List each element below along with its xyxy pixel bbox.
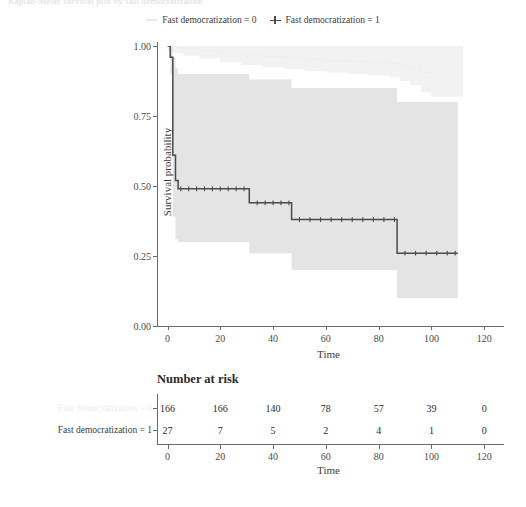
risk-x-tick-label: 80 — [374, 451, 384, 462]
risk-cell: 27 — [163, 425, 173, 436]
risk-cell: 7 — [218, 425, 223, 436]
risk-row-label-0: Fast democratization = 0 — [58, 403, 152, 413]
x-tick-label: 80 — [374, 333, 384, 344]
legend-label-group-1: Fast democratization = 1 — [286, 15, 380, 25]
risk-cell: 2 — [323, 425, 328, 436]
risk-cell: 1 — [429, 425, 434, 436]
risk-x-tick-mark — [326, 445, 327, 449]
y-tick-mark — [153, 186, 157, 187]
risk-x-tick-label: 120 — [477, 451, 492, 462]
risk-cell: 4 — [376, 425, 381, 436]
risk-x-tick-label: 60 — [321, 451, 331, 462]
risk-x-tick-mark — [484, 445, 485, 449]
risk-row-label-1: Fast democratization = 1 — [58, 425, 152, 435]
risk-cell: 39 — [426, 403, 436, 414]
x-tick-label: 60 — [321, 333, 331, 344]
y-tick-label: 0.75 — [134, 111, 152, 122]
risk-cell: 0 — [482, 403, 487, 414]
x-tick-label: 100 — [424, 333, 439, 344]
risk-cell: 0 — [482, 425, 487, 436]
y-tick-mark — [153, 326, 157, 327]
risk-cell: 166 — [160, 403, 175, 414]
risk-cell: 78 — [321, 403, 331, 414]
x-tick-mark — [431, 326, 432, 330]
risk-cell: 57 — [374, 403, 384, 414]
x-tick-mark — [168, 326, 169, 330]
y-tick-label: 0.25 — [134, 251, 152, 262]
risk-y-axis-line — [157, 394, 158, 444]
y-tick-mark — [153, 256, 157, 257]
survival-curves — [157, 46, 500, 326]
risk-x-tick-mark — [273, 445, 274, 449]
x-axis-line — [157, 326, 504, 327]
x-tick-label: 20 — [215, 333, 225, 344]
risk-x-axis-title: Time — [157, 464, 500, 476]
risk-x-tick-mark — [220, 445, 221, 449]
risk-x-tick-mark — [379, 445, 380, 449]
y-axis-line — [157, 42, 158, 326]
number-at-risk-table: Number at risk Fast democratization = 01… — [157, 372, 500, 480]
risk-x-axis-line — [157, 444, 504, 445]
cropped-header-text: Kaplan-Meier survival plot by fast democ… — [8, 0, 508, 6]
risk-cell: 5 — [271, 425, 276, 436]
legend-label-group-0: Fast democratization = 0 — [162, 15, 256, 25]
risk-x-tick-mark — [431, 445, 432, 449]
risk-x-tick-label: 20 — [215, 451, 225, 462]
x-tick-mark — [220, 326, 221, 330]
y-tick-mark — [153, 46, 157, 47]
chart-legend: Fast democratization = 0 Fast democratiz… — [0, 15, 526, 25]
risk-cell: 140 — [266, 403, 281, 414]
risk-cell: 166 — [213, 403, 228, 414]
x-tick-label: 0 — [165, 333, 170, 344]
survival-plot-panel: Survival probability 0.000.250.500.751.0… — [157, 46, 500, 326]
y-tick-label: 0.00 — [134, 321, 152, 332]
risk-x-tick-label: 0 — [165, 451, 170, 462]
x-tick-mark — [379, 326, 380, 330]
risk-x-tick-label: 100 — [424, 451, 439, 462]
x-tick-mark — [273, 326, 274, 330]
legend-item-group-1[interactable]: Fast democratization = 1 — [270, 15, 380, 25]
risk-row-tick — [153, 408, 157, 409]
risk-x-tick-label: 40 — [268, 451, 278, 462]
risk-x-tick-mark — [168, 445, 169, 449]
y-tick-label: 1.00 — [134, 41, 152, 52]
x-tick-label: 40 — [268, 333, 278, 344]
x-tick-mark — [326, 326, 327, 330]
plus-censor-icon — [270, 16, 281, 25]
x-tick-mark — [484, 326, 485, 330]
x-axis-title: Time — [157, 348, 500, 360]
y-axis-title: Survival probability — [161, 12, 173, 332]
risk-table-title: Number at risk — [157, 372, 239, 387]
y-tick-mark — [153, 116, 157, 117]
risk-row-tick — [153, 430, 157, 431]
x-tick-label: 120 — [477, 333, 492, 344]
y-tick-label: 0.50 — [134, 181, 152, 192]
dash-line-icon — [146, 19, 157, 21]
